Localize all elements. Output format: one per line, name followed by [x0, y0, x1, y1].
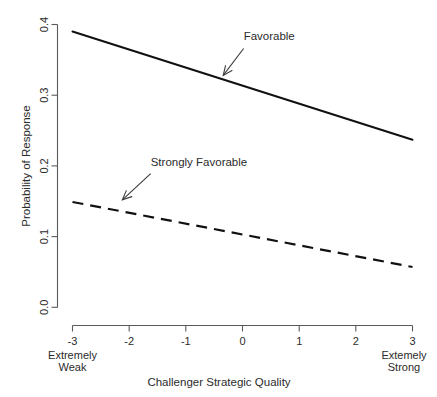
x-tick-label-3: 3 [409, 335, 415, 347]
annotation-strongly-favorable-arrow-line [122, 174, 150, 200]
y-axis-title: Probability of Response [20, 105, 32, 226]
annotation-strongly-favorable: Strongly Favorable [122, 156, 247, 200]
x-tick-label-2: 2 [353, 335, 359, 347]
x-tick-label-1: 1 [296, 335, 302, 347]
annotation-favorable-arrow-line [223, 49, 243, 76]
y-axis-ticks [52, 25, 58, 308]
annotation-favorable-label: Favorable [244, 30, 295, 42]
x-tick-label-0: 0 [239, 335, 245, 347]
x-tick-label--2: -2 [124, 335, 134, 347]
y-axis-tick-labels: 0.4 0.3 0.2 0.1 0.0 [38, 17, 50, 315]
x-axis-tick-labels: -3 -2 -1 0 1 2 3 [68, 335, 416, 347]
series-line-strongly-favorable [73, 202, 413, 267]
x-axis-title: Challenger Strategic Quality [147, 376, 290, 388]
y-tick-label-0.4: 0.4 [38, 17, 50, 32]
x-axis-endpoint-labels: Extremely Weak Extemely Strong [48, 349, 427, 373]
x-endpoint-right-line1: Extemely [381, 349, 427, 361]
chart-container: 0.4 0.3 0.2 0.1 0.0 Probability of Respo… [0, 0, 437, 397]
x-tick-label--3: -3 [68, 335, 78, 347]
x-endpoint-left-line2: Weak [59, 361, 87, 373]
y-tick-label-0.3: 0.3 [38, 88, 50, 103]
series-line-favorable [73, 32, 413, 140]
y-tick-label-0.2: 0.2 [38, 158, 50, 173]
y-tick-label-0.1: 0.1 [38, 229, 50, 244]
x-endpoint-left-line1: Extremely [48, 349, 97, 361]
annotation-strongly-favorable-label: Strongly Favorable [151, 156, 248, 168]
x-tick-label--1: -1 [181, 335, 191, 347]
y-tick-label-0.0: 0.0 [38, 300, 50, 315]
x-axis-ticks [73, 326, 413, 332]
x-endpoint-right-line2: Strong [388, 361, 420, 373]
annotation-favorable: Favorable [223, 30, 295, 75]
chart-plot-svg: 0.4 0.3 0.2 0.1 0.0 Probability of Respo… [0, 0, 437, 397]
